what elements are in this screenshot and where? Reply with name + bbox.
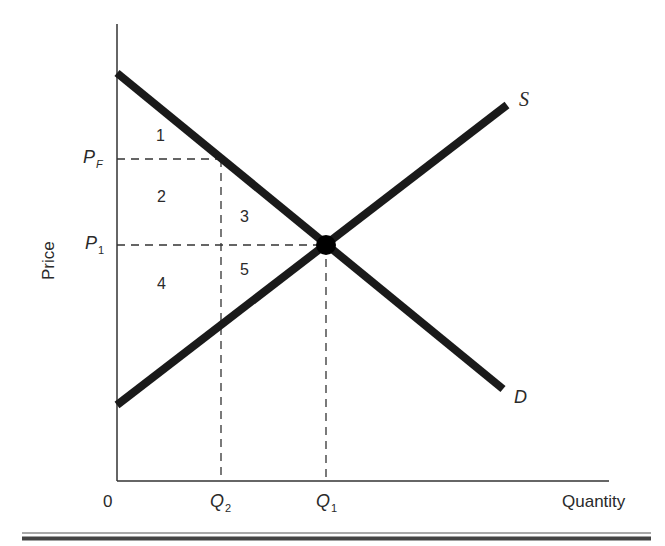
q1-label: Q1 xyxy=(316,492,337,510)
p1-label: P1 xyxy=(85,234,104,252)
quantity-axis-title: Quantity xyxy=(562,493,625,510)
region-5-label: 5 xyxy=(240,262,249,278)
supply-label: S xyxy=(519,89,529,109)
region-4-label: 4 xyxy=(157,276,166,292)
pf-label: PF xyxy=(83,148,103,166)
demand-label: D xyxy=(514,388,527,406)
price-axis-title: Price xyxy=(40,241,57,280)
q2-sub: 2 xyxy=(225,502,231,514)
p1-sub: 1 xyxy=(98,244,104,256)
p1-main: P xyxy=(85,233,97,253)
q2-label: Q2 xyxy=(210,492,231,510)
supply-curve xyxy=(117,105,507,405)
q2-main: Q xyxy=(210,491,224,511)
demand-curve xyxy=(117,73,503,389)
pf-sub: F xyxy=(96,158,103,170)
region-3-label: 3 xyxy=(240,209,249,225)
region-1-label: 1 xyxy=(156,128,165,144)
q1-main: Q xyxy=(316,491,330,511)
q1-sub: 1 xyxy=(331,502,337,514)
equilibrium-point xyxy=(316,235,336,255)
pf-main: P xyxy=(83,147,95,167)
origin-label: 0 xyxy=(103,493,112,510)
supply-demand-diagram xyxy=(0,0,665,546)
region-2-label: 2 xyxy=(157,189,166,205)
